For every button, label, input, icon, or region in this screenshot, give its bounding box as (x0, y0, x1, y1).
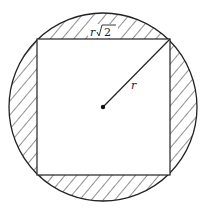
center-point (101, 105, 105, 109)
side-label-variable: r (90, 26, 96, 39)
side-length-label: r 2 (88, 24, 118, 39)
diagram: r r 2 (0, 0, 207, 211)
side-label-radicand: 2 (104, 26, 111, 39)
radius-label: r (131, 79, 137, 92)
